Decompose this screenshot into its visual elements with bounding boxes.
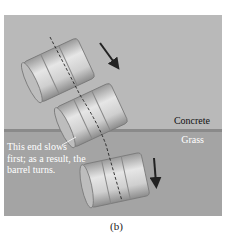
figure-caption: (b) <box>0 220 233 232</box>
barrel-bottom <box>77 152 150 209</box>
concrete-label: Concrete <box>174 115 210 126</box>
figure-panel: Concrete Grass This end slows first; as … <box>4 15 222 216</box>
grass-label: Grass <box>181 134 204 145</box>
annotation-text: This end slows first; as a result, the b… <box>7 141 87 176</box>
arrow-down-right-icon <box>100 43 116 65</box>
arrow-down-icon <box>154 158 156 183</box>
